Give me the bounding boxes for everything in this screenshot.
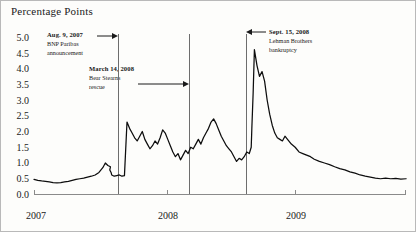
annotation-arrow-lehman <box>246 29 266 35</box>
chart-canvas <box>1 1 416 232</box>
annotation-arrow-bnp <box>97 33 118 39</box>
chart-frame: Percentage Points 5.0 4.5 4.0 3.5 3.0 2.… <box>0 0 416 232</box>
data-series-spread <box>34 50 406 183</box>
annotation-arrow-bear-stearns <box>138 81 189 87</box>
